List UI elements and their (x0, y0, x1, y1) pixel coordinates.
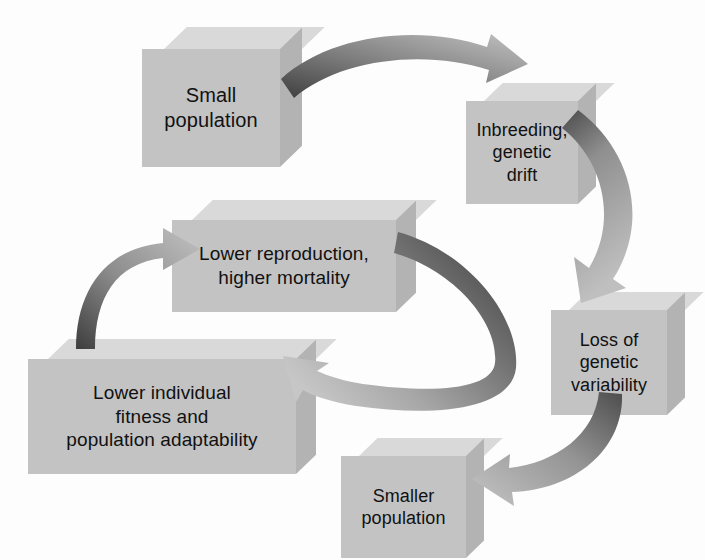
diagram-canvas: Small population Inbreeding, genetic dri… (0, 0, 705, 560)
node-lower-reproduction-higher-mortality[interactable]: Lower reproduction, higher mortality (172, 200, 416, 312)
box-side-face (280, 28, 302, 167)
box-side-face (466, 439, 484, 558)
box-side-face (296, 340, 316, 474)
box-front-face: Lower individual fitness and population … (28, 359, 296, 474)
box-front-face: Small population (142, 49, 280, 167)
node-loss-of-genetic-variability[interactable]: Loss of genetic variability (551, 292, 685, 415)
node-small-population[interactable]: Small population (142, 27, 302, 167)
node-label: Loss of genetic variability (567, 329, 651, 396)
box-front-face: Loss of genetic variability (551, 310, 667, 415)
box-side-face (396, 201, 416, 312)
node-label: Inbreeding, genetic drift (472, 119, 571, 186)
box-front-face: Inbreeding, genetic drift (466, 101, 578, 204)
node-smaller-population[interactable]: Smaller population (341, 438, 484, 558)
box-side-face (578, 84, 596, 204)
node-lower-individual-fitness[interactable]: Lower individual fitness and population … (28, 339, 316, 474)
node-label: Smaller population (357, 485, 449, 530)
node-label: Small population (160, 83, 261, 133)
box-front-face: Lower reproduction, higher mortality (172, 220, 396, 312)
box-top-face (48, 339, 337, 359)
node-label: Lower reproduction, higher mortality (195, 242, 373, 289)
box-front-face: Smaller population (341, 456, 466, 558)
node-label: Lower individual fitness and population … (62, 381, 261, 452)
node-inbreeding-genetic-drift[interactable]: Inbreeding, genetic drift (466, 83, 596, 204)
box-side-face (667, 293, 685, 415)
